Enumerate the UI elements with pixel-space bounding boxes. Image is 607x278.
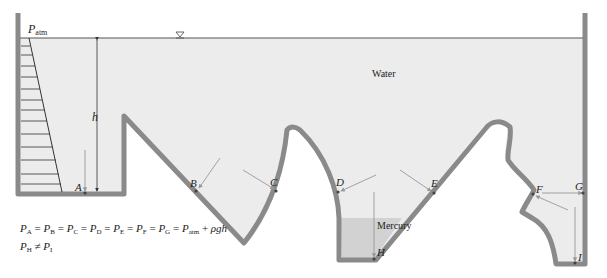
point-h-dot	[372, 257, 375, 260]
point-d-dot	[336, 190, 339, 193]
point-d-label: D	[335, 176, 344, 188]
point-f-label: F	[535, 183, 543, 195]
depth-label: h	[92, 110, 98, 124]
point-c-dot	[274, 189, 277, 192]
point-e-dot	[432, 191, 435, 194]
mercury-label: Mercury	[377, 220, 411, 231]
point-e-label: E	[430, 177, 438, 189]
point-a-label: A	[74, 181, 82, 193]
point-g-label: G	[575, 180, 583, 192]
water-label: Water	[372, 68, 396, 79]
point-i-dot	[573, 261, 576, 264]
hydrostatic-diagram: h Patm Water Mercury A B C D E F G H	[0, 0, 607, 278]
pressure-equality-equation: PA = PB = PC = PD = PE = PF = PG = Patm …	[20, 222, 227, 236]
point-f-dot	[531, 192, 534, 195]
point-b-label: B	[190, 177, 197, 189]
point-c-label: C	[270, 176, 278, 188]
pressure-inequality-equation: PH ≠ PI P_H ≠ P_I	[20, 240, 52, 254]
atm-pressure-label: Patm	[27, 22, 48, 37]
free-surface-symbol-icon	[176, 32, 184, 38]
point-b-dot	[194, 189, 197, 192]
point-a-dot	[83, 191, 86, 194]
point-h-label: H	[376, 246, 386, 258]
